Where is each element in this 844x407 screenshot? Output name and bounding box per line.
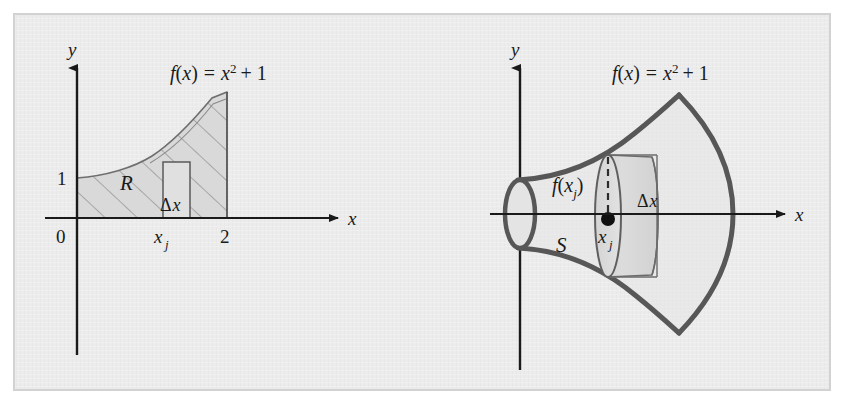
right-fn-equals: =	[646, 62, 657, 84]
left-region-label: R	[119, 171, 133, 195]
right-delta-var: x	[649, 191, 658, 211]
left-delta-symbol: Δ	[160, 195, 172, 215]
left-fn-equals: =	[204, 62, 215, 84]
left-fn-xterm: x	[220, 62, 230, 84]
right-x-axis-label: x	[794, 204, 804, 225]
left-fn-var: x	[181, 62, 191, 84]
left-x-axis-label: x	[347, 208, 357, 229]
right-fn-var: x	[623, 62, 633, 84]
left-xj-var: x	[153, 226, 163, 247]
right-solid-label: S	[556, 233, 567, 257]
left-x-tick-2: 2	[220, 226, 230, 247]
left-y-axis-label: y	[66, 39, 77, 60]
figure-canvas: y x 0 1 2 x j R Δx f(x)=x2+ 1	[0, 0, 844, 407]
figure-container: y x 0 1 2 x j R Δx f(x)=x2+ 1	[0, 0, 844, 407]
right-delta-x-label: Δx	[637, 191, 658, 211]
right-radius-paren-close: )	[577, 174, 584, 197]
left-fn-plus-one: + 1	[240, 62, 266, 84]
right-delta-symbol: Δ	[637, 191, 649, 211]
left-fn-exponent: 2	[230, 61, 237, 76]
right-xj-var: x	[597, 226, 607, 247]
right-fn-plus-one: + 1	[682, 62, 708, 84]
right-fn-exponent: 2	[672, 61, 679, 76]
left-origin-label: 0	[56, 226, 66, 247]
right-fn-xterm: x	[662, 62, 672, 84]
right-y-axis-label: y	[509, 39, 520, 60]
left-delta-var: x	[172, 195, 181, 215]
right-fn-paren-close: )	[633, 62, 640, 85]
left-delta-x-label: Δx	[160, 195, 181, 215]
left-y-tick-1: 1	[57, 168, 67, 189]
left-fn-paren-close: )	[191, 62, 198, 85]
right-radius-var: x	[563, 174, 573, 196]
